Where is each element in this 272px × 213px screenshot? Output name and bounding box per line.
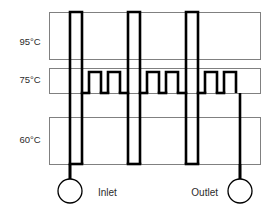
short-loop-3: [147, 72, 159, 93]
tall-loop-1: [70, 12, 82, 93]
pcr-thermal-cycling-diagram: 95°C75°C60°C InletOutlet: [0, 0, 272, 213]
outlet-label: Outlet: [191, 187, 218, 198]
short-loop-6: [224, 72, 236, 93]
microchannel-path: [69, 12, 240, 179]
zone-label-annealing: 60°C: [19, 134, 40, 145]
short-loop-2: [108, 72, 120, 93]
tall-loop-2: [128, 12, 140, 93]
short-loop-1: [89, 72, 101, 93]
temperature-zone-labels: 95°C75°C60°C: [19, 36, 40, 145]
short-loop-4: [166, 72, 178, 93]
zone-label-denaturation: 95°C: [19, 36, 40, 47]
zone-label-extension: 75°C: [19, 74, 40, 85]
inlet-label: Inlet: [98, 187, 117, 198]
outlet-port-circle[interactable]: [228, 179, 252, 203]
inlet-port-circle[interactable]: [58, 179, 82, 203]
short-loop-5: [205, 72, 217, 93]
port-group: InletOutlet: [58, 164, 252, 203]
diagram-canvas: 95°C75°C60°C InletOutlet: [0, 0, 272, 213]
tall-loop-3: [186, 12, 198, 93]
